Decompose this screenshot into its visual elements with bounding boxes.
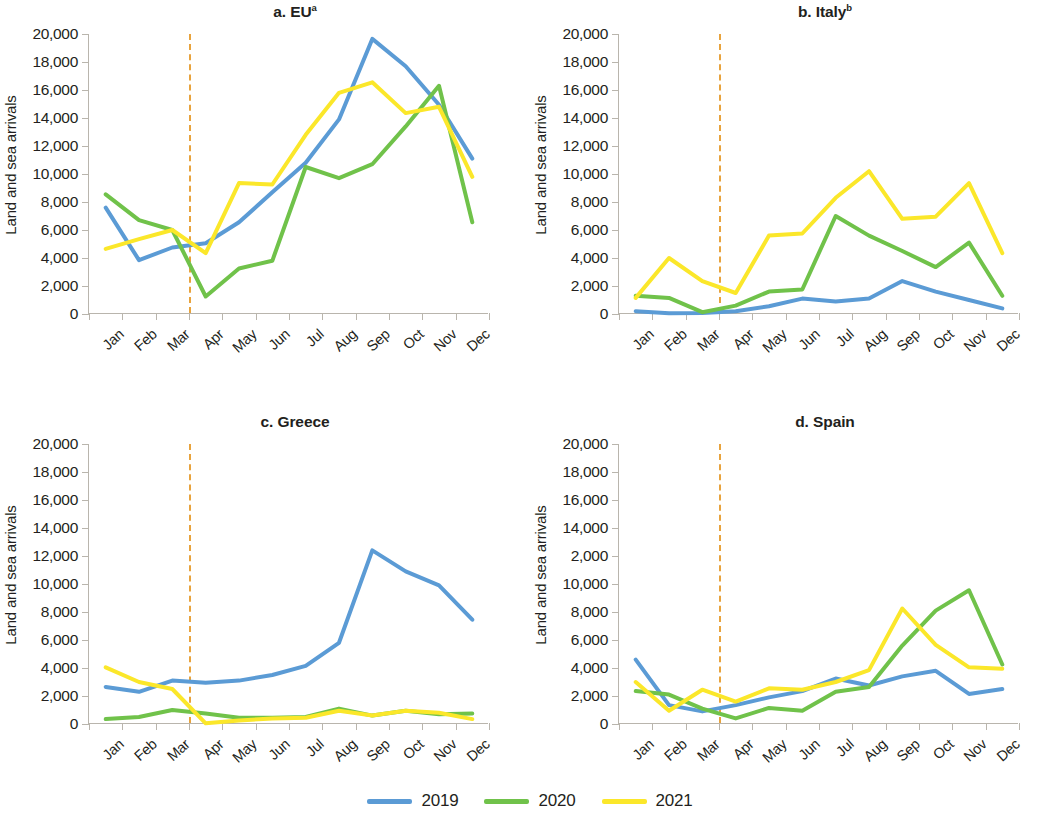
x-axis-tick-mark [222,313,223,320]
y-axis-tick-label: 6,000 [530,221,608,239]
panel-eu: a. EUa Land and sea arrivals 20,00018,00… [0,0,530,400]
y-axis-tick-mark [82,500,89,501]
x-axis-tick-mark [986,723,987,730]
y-axis-tick-mark [612,118,619,119]
panel-greece: c. Greece Land and sea arrivals 20,00018… [0,410,530,810]
y-axis-tick-mark [612,724,619,725]
x-axis-tick-mark [422,723,423,730]
y-axis-tick-mark [82,202,89,203]
y-axis-tick-mark [82,640,89,641]
panel-eu-title-superscript: a [312,2,317,13]
y-axis-tick-mark [612,612,619,613]
x-axis-tick-mark [1019,313,1020,320]
series-line-2021 [636,609,1003,711]
y-axis-tick-mark [82,230,89,231]
legend-item-2021[interactable]: 2021 [602,791,693,811]
y-axis-tick-mark [82,528,89,529]
x-axis-tick-mark [122,313,123,320]
panel-italy-title-superscript: b [846,2,852,13]
y-axis-tick-mark [612,174,619,175]
y-axis-tick-label: 16,000 [0,491,78,509]
x-axis-tick-mark [222,723,223,730]
panel-eu-plot-area [88,34,488,314]
x-axis-tick-mark [752,723,753,730]
y-axis-tick-label: 14,000 [0,109,78,127]
x-axis-tick-mark [886,313,887,320]
y-axis-tick-mark [612,258,619,259]
panel-spain-plot-area [618,444,1018,724]
legend-item-label: 2019 [421,791,458,811]
x-axis-tick-mark [189,313,190,320]
x-axis-tick-mark [289,723,290,730]
y-axis-tick-mark [612,668,619,669]
y-axis-tick-label: 8,000 [0,193,78,211]
series-line-2021 [106,667,473,723]
y-axis-tick-label: 2,000 [0,687,78,705]
y-axis-tick-mark [82,724,89,725]
series-line-2020 [106,86,473,297]
x-axis-tick-mark [919,313,920,320]
y-axis-tick-mark [612,286,619,287]
x-axis-tick-mark [886,723,887,730]
y-axis-tick-mark [82,444,89,445]
x-axis-tick-mark [256,723,257,730]
y-axis-tick-label: 10,000 [0,165,78,183]
legend-line-swatch-icon [602,799,647,804]
y-axis-tick-mark [82,90,89,91]
legend-item-label: 2020 [538,791,575,811]
y-axis-tick-mark [82,118,89,119]
y-axis-tick-label: 0 [0,715,78,733]
y-axis-tick-label: 8,000 [530,193,608,211]
panel-italy-plot-area [618,34,1018,314]
x-axis-tick-mark [786,723,787,730]
x-axis-tick-mark [852,723,853,730]
panel-greece-title: c. Greece [0,412,530,431]
x-axis-tick-mark [356,313,357,320]
y-axis-tick-mark [612,584,619,585]
x-axis-tick-mark [456,313,457,320]
y-axis-tick-label: 0 [530,305,608,323]
y-axis-tick-mark [612,314,619,315]
y-axis-tick-mark [612,472,619,473]
y-axis-tick-mark [612,528,619,529]
y-axis-tick-mark [82,34,89,35]
y-axis-tick-mark [82,556,89,557]
y-axis-tick-label: 10,000 [530,165,608,183]
series-canvas [89,34,489,314]
y-axis-tick-mark [612,34,619,35]
y-axis-tick-mark [82,584,89,585]
y-axis-tick-label: 18,000 [530,53,608,71]
x-axis-tick-mark [686,723,687,730]
panel-spain-title-text: d. Spain [795,413,854,430]
y-axis-tick-mark [82,314,89,315]
x-axis-tick-mark [952,723,953,730]
y-axis-tick-label: 16,000 [0,81,78,99]
y-axis-tick-label: 6,000 [530,631,608,649]
x-axis-tick-mark [819,313,820,320]
panel-italy-title-text: b. Italy [798,3,846,20]
y-axis-tick-label: 2,000 [530,547,608,565]
y-axis-tick-label: 4,000 [530,249,608,267]
panel-eu-title-text: a. EU [273,3,311,20]
y-axis-tick-label: 18,000 [0,463,78,481]
y-axis-tick-mark [612,444,619,445]
x-axis-tick-mark [389,313,390,320]
y-axis-tick-mark [82,668,89,669]
series-canvas [619,34,1019,314]
y-axis-tick-label: 2,000 [530,277,608,295]
y-axis-tick-label: 20,000 [530,25,608,43]
figure-land-and-sea-arrivals: a. EUa Land and sea arrivals 20,00018,00… [0,0,1060,817]
x-axis-tick-mark [752,313,753,320]
x-axis-tick-mark [389,723,390,730]
y-axis-tick-label: 20,000 [530,435,608,453]
legend-line-swatch-icon [484,799,529,804]
x-axis-tick-mark [1019,723,1020,730]
x-axis-tick-mark [489,313,490,320]
y-axis-tick-label: 16,000 [530,81,608,99]
panel-italy-title: b. Italyb [530,2,1060,21]
y-axis-tick-label: 12,000 [0,137,78,155]
legend-item-2020[interactable]: 2020 [484,791,575,811]
panel-spain: d. Spain Land and sea arrivals 20,00018,… [530,410,1060,810]
y-axis-tick-mark [612,146,619,147]
legend-item-2019[interactable]: 2019 [367,791,458,811]
